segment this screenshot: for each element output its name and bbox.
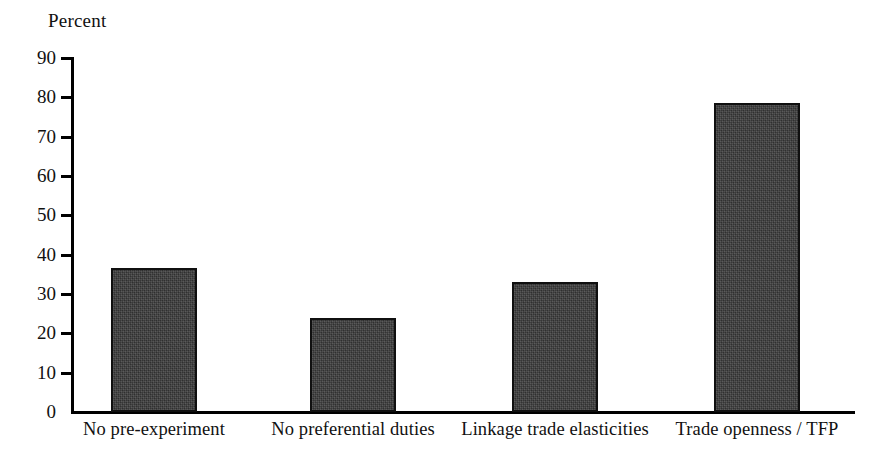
bar-linkage-trade-elasticities [512,282,598,412]
y-tick-label-50: 50 [12,204,56,226]
y-tick-50 [61,214,71,217]
bar-chart-figure: Percent 90 80 70 60 50 40 30 20 10 0 No … [0,0,878,465]
x-category-label-2: Linkage trade elasticities [461,419,649,440]
y-tick-80 [61,96,71,99]
y-tick-label-40: 40 [12,244,56,266]
y-tick-30 [61,293,71,296]
bar-trade-openness-tfp [714,103,800,412]
y-tick-60 [61,175,71,178]
y-tick-40 [61,254,71,257]
y-tick-10 [61,372,71,375]
y-tick-label-90: 90 [12,47,56,69]
y-tick-label-80: 80 [12,86,56,108]
y-axis-line [71,57,74,414]
x-category-label-0: No pre-experiment [83,419,225,440]
y-tick-70 [61,136,71,139]
y-axis-title: Percent [48,10,106,32]
bar-no-preferential-duties [310,318,396,412]
y-tick-label-0: 0 [12,401,56,423]
y-tick-label-20: 20 [12,322,56,344]
y-tick-20 [61,332,71,335]
y-tick-label-70: 70 [12,126,56,148]
y-tick-label-10: 10 [12,362,56,384]
y-tick-label-30: 30 [12,283,56,305]
y-tick-label-60: 60 [12,165,56,187]
y-tick-90 [61,57,71,60]
x-category-label-3: Trade openness / TFP [676,419,839,440]
x-category-label-1: No preferential duties [271,419,435,440]
bar-no-pre-experiment [111,268,197,412]
